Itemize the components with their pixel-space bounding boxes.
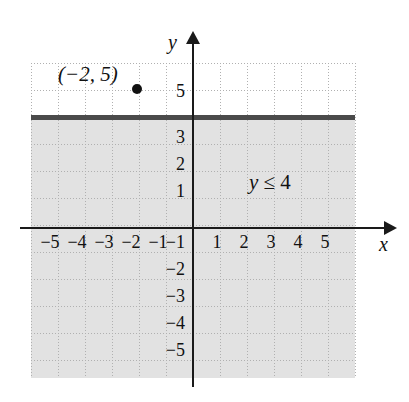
y-axis-arrow-icon xyxy=(186,31,200,44)
y-axis-tick-label: 1 xyxy=(155,181,185,202)
grid-line-vertical xyxy=(31,63,32,378)
x-axis-tick-label: 3 xyxy=(258,232,284,253)
x-axis-tick-label: −5 xyxy=(37,232,63,253)
y-axis-tick-label: −2 xyxy=(155,259,185,280)
y-axis-tick-label: 2 xyxy=(155,154,185,175)
grid-line-vertical xyxy=(85,63,86,378)
grid-line-vertical xyxy=(139,63,140,378)
x-axis-tick-label: 2 xyxy=(231,232,257,253)
y-axis-tick-label: 5 xyxy=(155,81,185,102)
grid-line-vertical xyxy=(247,63,248,378)
x-axis-tick-label: 5 xyxy=(312,232,338,253)
x-axis-tick-label: −4 xyxy=(64,232,90,253)
y-axis-line xyxy=(192,42,194,387)
y-axis-tick-label: −3 xyxy=(155,286,185,307)
x-axis-tick-label: −3 xyxy=(91,232,117,253)
x-axis-tick-label: 1 xyxy=(204,232,230,253)
x-axis-tick-label: 4 xyxy=(285,232,311,253)
grid-line-vertical xyxy=(220,63,221,378)
inequality-annotation: y ≤ 4 xyxy=(249,170,291,195)
y-axis-tick-label: −5 xyxy=(155,340,185,361)
y-axis-tick-label: 3 xyxy=(155,127,185,148)
grid-line-vertical xyxy=(328,63,329,378)
y-axis-label: y xyxy=(168,31,177,54)
plotted-point-label: (−2, 5) xyxy=(58,62,118,87)
plotted-point-marker xyxy=(132,84,142,94)
grid-line-vertical xyxy=(112,63,113,378)
x-axis-label: x xyxy=(379,233,388,256)
x-axis-tick-label: −2 xyxy=(118,232,144,253)
x-axis-line xyxy=(20,227,392,229)
grid-line-vertical xyxy=(355,63,356,378)
y-axis-tick-label: −4 xyxy=(155,313,185,334)
y-axis-tick-label: −1 xyxy=(155,232,185,253)
coordinate-plane-figure: y x −5−4−3−2−112345 5321−1−2−3−4−5 (−2, … xyxy=(0,0,409,402)
grid-line-vertical xyxy=(301,63,302,378)
grid-line-vertical xyxy=(58,63,59,378)
grid-line-vertical xyxy=(274,63,275,378)
